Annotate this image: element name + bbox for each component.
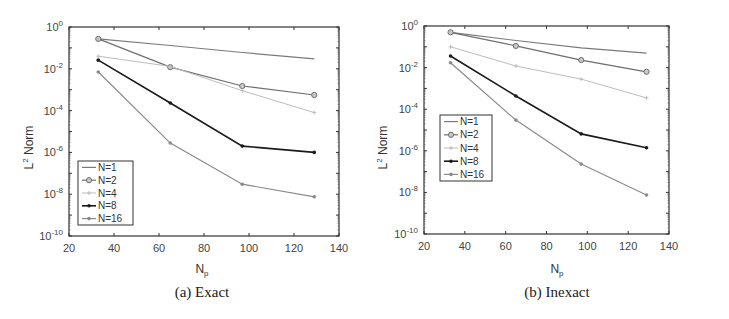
series-n-2 [96,36,317,97]
series-n-1 [451,32,647,53]
series-n-8 [96,58,316,154]
x-tick-label: 120 [285,242,303,254]
ylabel-rest: Norm [22,126,36,159]
x-tick-label: 100 [578,240,596,252]
x-tick-label: 140 [330,242,348,254]
ylabel-rest: Norm [376,126,390,159]
x-tick-label: 80 [540,240,552,252]
x-axis-label: Np [20,262,384,278]
y-tick-label: 10-4 [44,103,64,117]
xlabel-sub: p [204,269,208,278]
y-axis-label: L2 Norm [375,110,390,170]
x-axis-label: Np [375,262,729,278]
x-tick-label: 60 [500,240,512,252]
x-tick-label: 80 [198,242,210,254]
y-tick-label: 10-2 [399,60,419,74]
y-tick-label: 10-6 [44,144,64,158]
y-tick-label: 10-6 [399,143,419,157]
y-axis-label: L2 Norm [21,110,36,170]
svg-text:N=1: N=1 [98,162,117,173]
ylabel-sup: 2 [375,158,384,162]
series-n-4 [96,54,316,114]
x-tick-label: 20 [418,240,430,252]
x-tick-label: 20 [63,242,75,254]
svg-text:N=8: N=8 [460,156,479,167]
y-tick-label: 100 [46,19,63,33]
legend: N=1N=2N=4N=8N=16 [440,115,492,181]
svg-text:N=4: N=4 [98,188,117,199]
ylabel-sup: 2 [21,158,30,162]
xlabel-sub: p [559,269,563,278]
x-tick-label: 40 [459,240,471,252]
svg-text:N=16: N=16 [460,169,485,180]
y-tick-label: 100 [401,18,418,32]
legend: N=1N=2N=4N=8N=16 [78,161,133,225]
caption: (a) Exact [20,284,384,301]
panel-exact: 2040608010012014010-1010-810-610-410-210… [0,0,364,319]
panel-inexact: 2040608010012014010-1010-810-610-410-210… [364,0,728,319]
svg-text:N=16: N=16 [98,213,123,224]
xlabel-main: N [195,262,204,276]
x-tick-label: 40 [108,242,120,254]
xlabel-main: N [550,262,559,276]
caption: (b) Inexact [375,284,729,301]
y-tick-label: 10-10 [394,226,418,240]
y-tick-label: 10-8 [399,184,419,198]
svg-text:N=2: N=2 [98,175,117,186]
svg-text:N=2: N=2 [460,129,479,140]
x-tick-label: 100 [240,242,258,254]
y-tick-label: 10-8 [44,186,64,200]
svg-text:N=8: N=8 [98,200,117,211]
x-tick-label: 60 [153,242,165,254]
y-tick-label: 10-2 [44,61,64,75]
y-tick-label: 10-4 [399,101,419,115]
x-tick-label: 140 [660,240,678,252]
ylabel-main: L [22,163,36,170]
series-n-1 [98,39,314,59]
svg-text:N=4: N=4 [460,143,479,154]
ylabel-main: L [376,163,390,170]
series-n-2 [448,30,649,75]
y-tick-label: 10-10 [39,228,63,242]
x-tick-label: 120 [619,240,637,252]
svg-text:N=1: N=1 [460,116,479,127]
